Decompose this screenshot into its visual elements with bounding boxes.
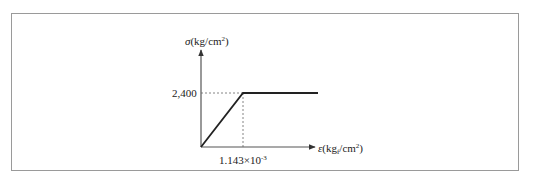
stress-strain-curve xyxy=(201,93,318,147)
y-tick-label: 2,400 xyxy=(172,87,197,99)
x-tick-label: 1.143×10-3 xyxy=(219,152,267,166)
x-unit-suffix: ) xyxy=(359,142,363,154)
x-tick-mantissa: 1.143 xyxy=(219,154,244,166)
y-unit-suffix: ) xyxy=(225,35,229,47)
x-tick-base: 10 xyxy=(250,154,261,166)
x-unit-prefix: (kg xyxy=(322,142,337,154)
y-tick-value: 2,400 xyxy=(172,87,197,99)
x-unit-mid: /cm xyxy=(339,142,356,154)
x-axis-label: ε(kgf/cm2) xyxy=(318,140,363,158)
y-unit-prefix: (kg/cm xyxy=(190,35,221,47)
x-tick-exp: -3 xyxy=(261,154,267,162)
y-axis-label: σ(kg/cm2) xyxy=(185,33,229,47)
